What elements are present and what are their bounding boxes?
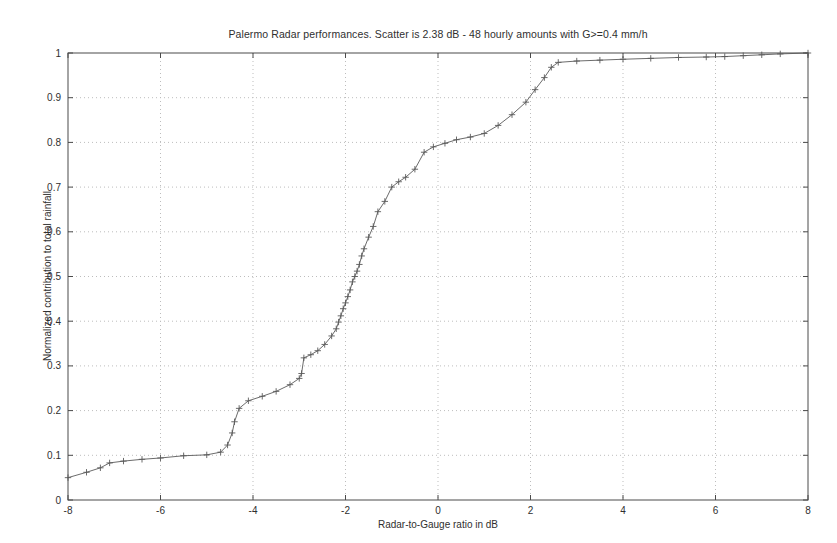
svg-text:0.3: 0.3 xyxy=(47,360,61,371)
svg-text:2: 2 xyxy=(528,505,534,516)
data-point-marker xyxy=(574,58,580,64)
data-point-marker xyxy=(620,56,626,62)
svg-text:8: 8 xyxy=(805,505,811,516)
tick-labels: -8-6-4-20246800.10.20.30.40.50.60.70.80.… xyxy=(47,48,811,517)
data-point-marker xyxy=(375,208,381,214)
data-point-marker xyxy=(301,355,307,361)
data-point-marker xyxy=(361,246,367,252)
data-point-marker xyxy=(333,326,339,332)
svg-text:0.9: 0.9 xyxy=(47,92,61,103)
data-point-marker xyxy=(308,352,314,358)
data-point-marker xyxy=(648,55,654,61)
data-point-marker xyxy=(365,234,371,240)
data-point-marker xyxy=(430,144,436,150)
data-point-marker xyxy=(442,140,448,146)
svg-text:1: 1 xyxy=(55,48,61,59)
data-point-marker xyxy=(120,458,126,464)
data-point-marker xyxy=(370,223,376,229)
svg-text:4: 4 xyxy=(620,505,626,516)
data-point-marker xyxy=(106,460,112,466)
data-point-marker xyxy=(597,57,603,63)
data-point-marker xyxy=(345,293,351,299)
data-point-marker xyxy=(231,419,237,425)
data-point-marker xyxy=(97,465,103,471)
plot-area: -8-6-4-20246800.10.20.30.40.50.60.70.80.… xyxy=(0,0,837,543)
data-point-marker xyxy=(335,319,341,325)
grid-lines xyxy=(68,53,808,500)
data-point-marker xyxy=(548,64,554,70)
svg-text:0.7: 0.7 xyxy=(47,182,61,193)
data-point-marker xyxy=(342,300,348,306)
data-point-marker xyxy=(722,53,728,59)
svg-text:-6: -6 xyxy=(156,505,165,516)
data-point-marker xyxy=(358,253,364,259)
data-point-marker xyxy=(675,54,681,60)
svg-text:-4: -4 xyxy=(249,505,258,516)
data-point-marker xyxy=(204,452,210,458)
data-point-marker xyxy=(805,50,811,56)
data-point-marker xyxy=(139,456,145,462)
svg-text:6: 6 xyxy=(713,505,719,516)
svg-text:0: 0 xyxy=(55,495,61,506)
svg-text:0.5: 0.5 xyxy=(47,271,61,282)
data-point-marker xyxy=(287,381,293,387)
data-point-marker xyxy=(356,261,362,267)
data-point-marker xyxy=(467,134,473,140)
svg-text:0.1: 0.1 xyxy=(47,450,61,461)
data-point-marker xyxy=(382,198,388,204)
data-point-marker xyxy=(703,54,709,60)
data-point-marker xyxy=(83,469,89,475)
data-point-marker xyxy=(65,474,71,480)
data-point-marker xyxy=(421,149,427,155)
data-point-marker xyxy=(180,453,186,459)
data-point-marker xyxy=(347,287,353,293)
svg-text:-2: -2 xyxy=(341,505,350,516)
data-point-marker xyxy=(338,313,344,319)
data-point-marker xyxy=(453,137,459,143)
data-point-marker xyxy=(340,305,346,311)
svg-text:0.2: 0.2 xyxy=(47,405,61,416)
svg-text:0: 0 xyxy=(435,505,441,516)
svg-text:0.6: 0.6 xyxy=(47,226,61,237)
data-point-marker xyxy=(481,130,487,136)
svg-text:0.4: 0.4 xyxy=(47,316,61,327)
data-point-marker xyxy=(273,388,279,394)
svg-text:0.8: 0.8 xyxy=(47,137,61,148)
data-point-marker xyxy=(259,393,265,399)
figure-canvas: Palermo Radar performances. Scatter is 2… xyxy=(0,0,837,543)
data-point-marker xyxy=(157,455,163,461)
data-point-marker xyxy=(229,430,235,436)
data-point-marker xyxy=(777,51,783,57)
svg-text:-8: -8 xyxy=(64,505,73,516)
data-point-marker xyxy=(555,59,561,65)
